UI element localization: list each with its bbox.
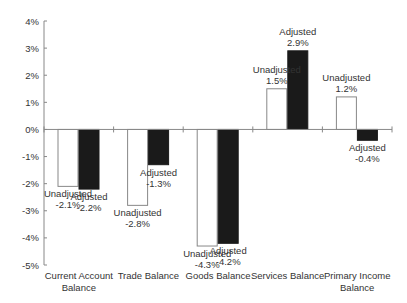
y-tick-label: 3%: [25, 43, 39, 54]
data-label-value: 2.9%: [287, 37, 309, 48]
bar-adjusted: [218, 129, 238, 243]
category-label: Primary Income: [324, 270, 391, 281]
y-tick-label: -2%: [22, 178, 39, 189]
category-label: Services Balance: [251, 270, 324, 281]
bar-chart: 4%3%2%1%0%-1%-2%-3%-4%-5% Current Accoun…: [0, 0, 407, 303]
y-tick-label: 1%: [25, 97, 39, 108]
y-tick-label: -3%: [22, 205, 39, 216]
category-label: Current Account: [45, 270, 113, 281]
y-axis: 4%3%2%1%0%-1%-2%-3%-4%-5%: [22, 16, 47, 271]
category-label: Balance: [62, 282, 96, 293]
bar-unadjusted: [197, 129, 217, 246]
bar-adjusted: [357, 129, 377, 140]
category-label: Trade Balance: [118, 270, 179, 281]
bar-unadjusted: [58, 129, 78, 186]
y-tick-label: 0%: [25, 124, 39, 135]
data-label-name: Adjusted: [279, 26, 316, 37]
data-label-name: Unadjusted: [114, 207, 162, 218]
data-label-name: Adjusted: [140, 167, 177, 178]
bar-unadjusted: [336, 97, 356, 130]
data-label-value: -0.4%: [355, 153, 380, 164]
y-tick-label: 2%: [25, 70, 39, 81]
data-label-name: Adjusted: [71, 191, 108, 202]
y-tick-label: -1%: [22, 151, 39, 162]
bar-adjusted: [149, 129, 169, 164]
bar-unadjusted: [267, 89, 287, 130]
data-label-name: Adjusted: [349, 142, 386, 153]
y-tick-label: -5%: [22, 260, 39, 271]
bar-adjusted: [79, 129, 99, 189]
category-label: Balance: [340, 282, 374, 293]
bar-adjusted: [288, 51, 308, 130]
category-label: Goods Balance: [186, 270, 251, 281]
data-label-value: -1.3%: [146, 178, 171, 189]
y-tick-label: 4%: [25, 16, 39, 27]
data-label-name: Adjusted: [210, 245, 247, 256]
data-label-value: -2.2%: [77, 202, 102, 213]
data-label-value: 1.2%: [336, 83, 358, 94]
data-label-name: Unadjusted: [322, 72, 370, 83]
data-label-value: 1.5%: [266, 75, 288, 86]
y-tick-label: -4%: [22, 232, 39, 243]
data-label-name: Unadjusted: [253, 64, 301, 75]
data-label-value: -4.2%: [216, 256, 241, 267]
data-label-value: -2.8%: [125, 218, 150, 229]
